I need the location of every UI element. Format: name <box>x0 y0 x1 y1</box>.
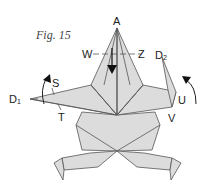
label-t: T <box>58 111 65 123</box>
right-foot <box>170 158 181 180</box>
left-back-leg <box>62 151 117 170</box>
left-foot <box>54 158 64 180</box>
label-d1: D1 <box>9 93 21 105</box>
label-a: A <box>113 15 121 27</box>
origami-diagram: Fig. 15 A W Z D2 D1 S T U V <box>0 0 205 191</box>
label-v: V <box>168 112 176 124</box>
body <box>76 112 160 151</box>
label-z: Z <box>138 48 145 60</box>
label-s: S <box>52 77 59 89</box>
label-u: U <box>178 94 186 106</box>
label-d2: D2 <box>155 49 167 61</box>
figure-caption: Fig. 15 <box>35 28 71 42</box>
label-w: W <box>82 48 93 60</box>
right-back-leg <box>117 151 172 170</box>
